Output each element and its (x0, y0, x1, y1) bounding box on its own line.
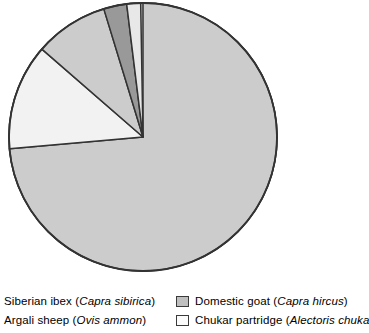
legend-latin-name: Alectoris chuka (290, 314, 369, 326)
legend-item-label: Domestic goat (Capra hircus) (195, 295, 348, 308)
legend-latin-name: Capra hircus (277, 295, 344, 307)
pie-chart-plot-area (0, 0, 290, 280)
legend-latin-name: Capra sibirica (79, 295, 151, 307)
legend-swatch-icon (176, 315, 189, 326)
legend-item-chukar-partridge: Chukar partridge (Alectoris chuka (176, 311, 358, 330)
legend-item-domestic-goat: Domestic goat (Capra hircus) (176, 292, 358, 311)
legend-item-label: Chukar partridge (Alectoris chuka (195, 314, 369, 327)
legend-item-label: Argali sheep (Ovis ammon) (4, 314, 146, 327)
legend-latin-name: Ovis ammon (77, 314, 143, 326)
legend-item-argali-sheep: Argali sheep (Ovis ammon) (4, 311, 176, 330)
chart-legend: Siberian ibex (Capra sibirica) Argali sh… (0, 292, 358, 333)
pie-slice-group (9, 3, 277, 271)
legend-swatch-icon (176, 296, 189, 307)
legend-item-siberian-ibex: Siberian ibex (Capra sibirica) (4, 292, 176, 311)
legend-item-label: Siberian ibex (Capra sibirica) (4, 295, 155, 308)
pie-chart-svg (0, 0, 290, 280)
legend-column-right: Domestic goat (Capra hircus) Chukar part… (176, 292, 358, 330)
legend-column-left: Siberian ibex (Capra sibirica) Argali sh… (4, 292, 176, 330)
